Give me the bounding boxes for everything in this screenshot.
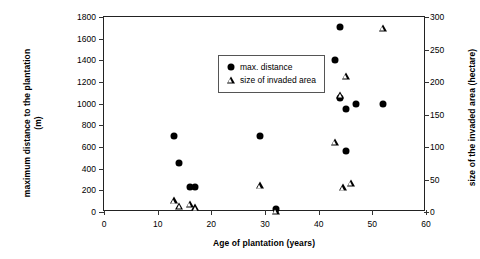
y-axis-right-tick [424, 147, 429, 148]
data-point-triangle [272, 207, 280, 214]
data-point-circle [256, 133, 263, 140]
y-axis-left-tick-label: 1600 [56, 34, 96, 44]
data-point-triangle [379, 25, 387, 32]
y-axis-left-tick-label: 1800 [56, 12, 96, 22]
triangle-marker-icon [225, 74, 237, 86]
x-axis-title: Age of plantation (years) [103, 238, 425, 249]
y-axis-left-tick-label: 400 [56, 164, 96, 174]
data-point-circle [353, 100, 360, 107]
y-axis-left-tick-label: 200 [56, 185, 96, 195]
y-axis-left-tick [99, 125, 104, 126]
x-axis-tick-label: 20 [191, 219, 231, 229]
data-point-triangle [342, 72, 350, 79]
y-axis-left-tick [99, 104, 104, 105]
circle-marker-icon [225, 61, 237, 73]
x-axis-tick [158, 210, 159, 215]
y-axis-left-tick-label: 0 [56, 207, 96, 217]
data-point-circle [342, 148, 349, 155]
data-point-circle [331, 57, 338, 64]
y-axis-left-tick [99, 147, 104, 148]
legend-marker [228, 64, 235, 71]
data-point-circle [170, 133, 177, 140]
y-axis-right-tick-label: 150 [430, 110, 470, 120]
y-axis-right-tick-label: 100 [430, 142, 470, 152]
x-axis-tick-label: 0 [84, 219, 124, 229]
legend-label: size of invaded area [240, 75, 316, 85]
data-point-circle [342, 106, 349, 113]
y-axis-left-tick [99, 17, 104, 18]
y-axis-left-tick-label: 1200 [56, 77, 96, 87]
y-axis-right-tick [424, 50, 429, 51]
data-point-triangle [256, 182, 264, 189]
x-axis-tick [104, 210, 105, 215]
x-axis-tick [265, 210, 266, 215]
y-axis-left-tick-label: 1000 [56, 99, 96, 109]
legend-item: max. distance [225, 61, 316, 73]
y-axis-left-tick [99, 60, 104, 61]
chart-figure: maximum distance to the plantation (m) s… [0, 0, 480, 259]
x-axis-tick [426, 210, 427, 215]
y-axis-left-tick [99, 82, 104, 83]
y-axis-right-tick [424, 82, 429, 83]
x-axis-tick [372, 210, 373, 215]
y-axis-left-title: maximum distance to the plantation (m) [22, 28, 44, 218]
data-point-triangle [347, 179, 355, 186]
y-axis-right-tick [424, 17, 429, 18]
x-axis-tick [211, 210, 212, 215]
data-point-triangle [175, 202, 183, 209]
y-axis-right-tick-label: 50 [430, 175, 470, 185]
chart-legend: max. distancesize of invaded area [218, 55, 325, 93]
y-axis-right-tick-label: 300 [430, 12, 470, 22]
data-point-triangle [331, 138, 339, 145]
plot-area: 020040060080010001200140016001800 050100… [103, 16, 425, 211]
y-axis-right-tick [424, 115, 429, 116]
data-point-triangle [191, 204, 199, 211]
x-axis-tick-label: 10 [138, 219, 178, 229]
data-point-circle [380, 100, 387, 107]
legend-label: max. distance [240, 62, 292, 72]
data-point-circle [192, 184, 199, 191]
x-axis-tick [319, 210, 320, 215]
y-axis-right-tick [424, 180, 429, 181]
y-axis-left-tick-label: 600 [56, 142, 96, 152]
y-axis-right-tick-label: 200 [430, 77, 470, 87]
y-axis-left-tick [99, 39, 104, 40]
y-axis-left-tick [99, 190, 104, 191]
legend-item: size of invaded area [225, 74, 316, 86]
y-axis-left-tick [99, 169, 104, 170]
y-axis-right-tick-label: 0 [430, 207, 470, 217]
y-axis-right-tick-label: 250 [430, 45, 470, 55]
data-point-triangle [336, 92, 344, 99]
legend-marker [227, 77, 235, 84]
data-point-circle [176, 160, 183, 167]
y-axis-left-tick-label: 1400 [56, 55, 96, 65]
data-point-circle [337, 23, 344, 30]
data-point-triangle [339, 184, 347, 191]
x-axis-tick-label: 30 [245, 219, 285, 229]
x-axis-tick-label: 40 [299, 219, 339, 229]
y-axis-left-tick-label: 800 [56, 120, 96, 130]
x-axis-tick-label: 60 [406, 219, 446, 229]
x-axis-tick-label: 50 [352, 219, 392, 229]
